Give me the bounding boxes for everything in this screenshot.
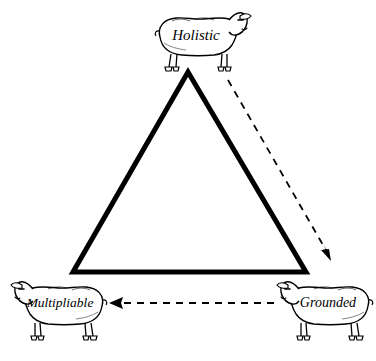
arrow-grounded-to-multipliable: [109, 297, 274, 309]
node-label-holistic: Holistic: [150, 28, 242, 43]
sheep-icon-multipliable: [11, 282, 107, 340]
triangle-relationship-diagram: Holistic Multipliable Grounded: [0, 0, 376, 361]
sheep-icon-grounded: [277, 282, 373, 340]
node-label-multipliable: Multipliable: [16, 296, 104, 310]
node-label-grounded: Grounded: [288, 296, 368, 310]
triangle-outline: [73, 72, 306, 272]
